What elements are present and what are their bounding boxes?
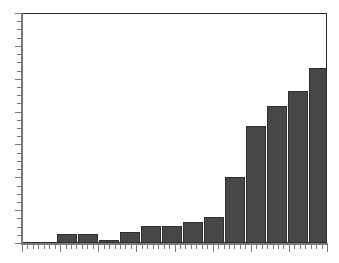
x-axis-minor-tick: [66, 245, 67, 249]
y-axis-tick: [17, 21, 21, 22]
y-axis-tick: [17, 186, 21, 187]
x-axis-major-tick: [289, 245, 290, 252]
y-axis-tick: [17, 218, 21, 219]
x-axis-minor-tick: [104, 245, 105, 249]
y-axis-tick: [15, 79, 21, 80]
y-axis-tick: [17, 71, 21, 72]
x-axis-minor-tick: [305, 245, 306, 249]
x-axis-major-tick: [251, 245, 252, 252]
x-axis-major-tick: [22, 245, 23, 252]
bar: [288, 91, 308, 243]
x-axis-minor-tick: [93, 245, 94, 249]
y-axis-tick: [17, 227, 21, 228]
x-axis-minor-tick: [87, 245, 88, 249]
x-axis-minor-tick: [44, 245, 45, 249]
y-axis-tick: [17, 95, 21, 96]
bar: [246, 126, 266, 243]
y-axis-tick: [17, 153, 21, 154]
bar: [267, 106, 287, 243]
x-axis-minor-tick: [147, 245, 148, 249]
bar: [225, 177, 245, 243]
x-axis-minor-tick: [316, 245, 317, 249]
y-axis-tick: [17, 120, 21, 121]
x-axis-minor-tick: [55, 245, 56, 249]
x-axis-minor-tick: [125, 245, 126, 249]
x-axis-minor-tick: [278, 245, 279, 249]
y-axis-tick: [17, 38, 21, 39]
bar-chart: [0, 0, 339, 263]
x-axis-minor-tick: [71, 245, 72, 249]
y-axis-tick: [15, 144, 21, 145]
y-axis-tick: [17, 136, 21, 137]
x-axis-minor-tick: [202, 245, 203, 249]
y-axis-tick: [17, 87, 21, 88]
bars-container: [23, 14, 326, 243]
x-axis-major-tick: [136, 245, 137, 252]
y-axis-tick: [17, 169, 21, 170]
y-axis-tick: [17, 103, 21, 104]
bar: [120, 232, 140, 243]
y-axis-tick: [17, 128, 21, 129]
x-axis-minor-tick: [33, 245, 34, 249]
y-axis-tick: [17, 62, 21, 63]
x-axis-minor-tick: [180, 245, 181, 249]
y-axis-tick: [17, 54, 21, 55]
x-axis-minor-tick: [164, 245, 165, 249]
x-axis-minor-tick: [218, 245, 219, 249]
bar: [78, 234, 98, 243]
x-axis-minor-tick: [273, 245, 274, 249]
x-axis-minor-tick: [240, 245, 241, 249]
x-axis-minor-tick: [120, 245, 121, 249]
x-axis-minor-tick: [294, 245, 295, 249]
x-axis-minor-tick: [49, 245, 50, 249]
y-axis-tick: [17, 29, 21, 30]
bar: [141, 226, 161, 243]
x-axis-minor-tick: [207, 245, 208, 249]
bar: [57, 234, 77, 243]
y-axis-tick: [17, 161, 21, 162]
x-axis-major-tick: [175, 245, 176, 252]
x-axis-minor-tick: [322, 245, 323, 249]
x-axis-major-tick: [213, 245, 214, 252]
x-axis-minor-tick: [82, 245, 83, 249]
bar: [162, 226, 182, 243]
x-axis-minor-tick: [185, 245, 186, 249]
y-axis-tick: [15, 243, 21, 244]
x-axis-minor-tick: [267, 245, 268, 249]
bar: [309, 68, 326, 243]
y-axis-tick: [15, 177, 21, 178]
x-axis-major-tick: [327, 245, 328, 252]
bar: [204, 217, 224, 243]
x-axis-minor-tick: [196, 245, 197, 249]
x-axis-minor-tick: [245, 245, 246, 249]
y-axis-tick: [17, 202, 21, 203]
x-axis-minor-tick: [115, 245, 116, 249]
y-axis-tick: [15, 210, 21, 211]
x-axis-minor-tick: [191, 245, 192, 249]
x-axis-minor-tick: [169, 245, 170, 249]
y-axis-tick: [17, 235, 21, 236]
x-axis-minor-tick: [224, 245, 225, 249]
x-axis-minor-tick: [256, 245, 257, 249]
y-axis-tick: [15, 46, 21, 47]
x-axis-minor-tick: [142, 245, 143, 249]
x-axis-minor-tick: [158, 245, 159, 249]
x-axis-minor-tick: [311, 245, 312, 249]
y-axis-tick: [15, 13, 21, 14]
x-axis-minor-tick: [38, 245, 39, 249]
bar: [99, 240, 119, 243]
x-axis-minor-tick: [229, 245, 230, 249]
bar: [183, 222, 203, 243]
y-axis-tick: [17, 194, 21, 195]
x-axis-minor-tick: [109, 245, 110, 249]
x-axis-major-tick: [98, 245, 99, 252]
x-axis-minor-tick: [300, 245, 301, 249]
x-axis-minor-tick: [262, 245, 263, 249]
x-axis-minor-tick: [76, 245, 77, 249]
x-axis-minor-tick: [283, 245, 284, 249]
x-axis-minor-tick: [234, 245, 235, 249]
y-axis-tick: [15, 112, 21, 113]
x-axis-major-tick: [60, 245, 61, 252]
x-axis-minor-tick: [131, 245, 132, 249]
x-axis-minor-tick: [27, 245, 28, 249]
